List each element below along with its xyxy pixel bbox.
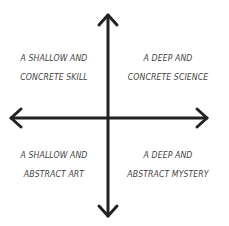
quadrant-top-right-label: A DEEP AND CONCRETE SCIENCE — [127, 48, 209, 86]
quadrant-top-left-label: A SHALLOW AND CONCRETE SKILL — [13, 48, 95, 86]
quadrant-bottom-right-line1: A DEEP AND — [127, 145, 209, 164]
quadrant-top-left-line2: CONCRETE SKILL — [13, 67, 95, 86]
axes — [0, 0, 229, 226]
quadrant-bottom-left-line2: ABSTRACT ART — [13, 164, 95, 183]
quadrant-bottom-left-line1: A SHALLOW AND — [13, 145, 95, 164]
quadrant-bottom-left-label: A SHALLOW AND ABSTRACT ART — [13, 145, 95, 183]
quadrant-top-right-line1: A DEEP AND — [127, 48, 209, 67]
quadrant-bottom-right-line2: ABSTRACT MYSTERY — [127, 164, 209, 183]
quadrant-top-left-line1: A SHALLOW AND — [13, 48, 95, 67]
vertical-axis — [99, 15, 117, 216]
quadrant-diagram: A SHALLOW AND CONCRETE SKILL A DEEP AND … — [0, 0, 229, 226]
quadrant-top-right-line2: CONCRETE SCIENCE — [127, 67, 209, 86]
quadrant-bottom-right-label: A DEEP AND ABSTRACT MYSTERY — [127, 145, 209, 183]
